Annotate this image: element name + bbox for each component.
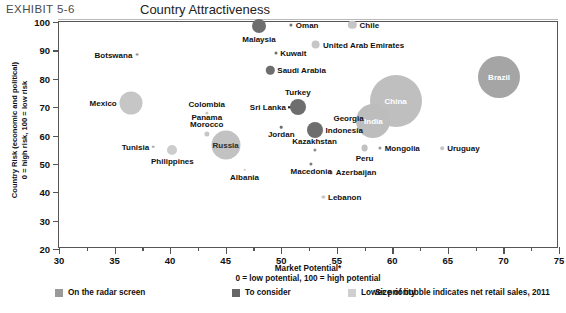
bubble-lebanon[interactable] (322, 195, 325, 198)
x-tick-minor (87, 247, 88, 251)
legend-item-0[interactable]: On the radar screen (55, 288, 145, 297)
point-label-china: China (385, 97, 407, 106)
x-tick-minor (309, 247, 310, 251)
bubble-kuwait[interactable] (274, 52, 277, 55)
y-axis-label-sub: 0 = high risk, 100 = low risk (20, 50, 30, 210)
point-label-mongolia: Mongolia (385, 144, 420, 153)
bubble-turkey[interactable] (290, 99, 306, 115)
x-tick-major (503, 247, 504, 254)
x-tick-minor (142, 247, 143, 251)
point-label-chile: Chile (360, 20, 380, 29)
bubble-saudi-arabia[interactable] (266, 66, 274, 74)
y-tick-label: 50 (39, 158, 50, 169)
bubble-albania[interactable] (243, 168, 245, 170)
bubble-mongolia[interactable] (379, 147, 382, 150)
point-label-indonesia: Indonesia (326, 125, 363, 134)
x-axis-label-main: Market Potential* (58, 264, 558, 274)
point-label-morocco: Morocco (190, 120, 223, 129)
y-tick (53, 79, 59, 80)
x-axis-label: Market Potential* 0 = low potential, 100… (58, 264, 558, 284)
y-axis-label: Country Risk (economic and political) 0 … (10, 50, 29, 210)
bubble-oman[interactable] (290, 23, 293, 26)
x-tick-major (281, 247, 282, 254)
chart-page: EXHIBIT 5-6 Country Attractiveness Count… (0, 0, 566, 313)
point-label-botswana: Botswana (95, 50, 133, 59)
y-tick (53, 50, 59, 51)
legend-item-2[interactable]: Lower priority (348, 288, 416, 297)
x-tick-minor (365, 247, 366, 251)
point-label-mexico: Mexico (90, 98, 117, 107)
bubble-peru[interactable] (361, 145, 368, 152)
legend-item-1[interactable]: To consider (232, 288, 291, 297)
point-label-malaysia: Malaysia (242, 35, 275, 44)
x-tick-minor (531, 247, 532, 251)
y-tick (53, 221, 59, 222)
x-tick-minor (198, 247, 199, 251)
point-label-united-arab-emirates: United Arab Emirates (323, 40, 404, 49)
bubble-morocco[interactable] (204, 131, 209, 136)
x-tick-major (337, 247, 338, 254)
chart-title: Country Attractiveness (140, 2, 270, 17)
y-tick-label: 100 (34, 17, 50, 28)
x-tick-major (170, 247, 171, 254)
y-tick (53, 22, 59, 23)
bubble-botswana[interactable] (135, 53, 138, 56)
y-tick (53, 192, 59, 193)
point-label-saudi-arabia: Saudi Arabia (277, 66, 326, 75)
point-label-russia: Russia (213, 141, 239, 150)
x-tick-major (226, 247, 227, 254)
bubble-indonesia[interactable] (307, 122, 323, 138)
x-tick-major (559, 247, 560, 254)
point-label-brazil: Brazil (488, 73, 510, 82)
x-tick-minor (253, 247, 254, 251)
legend-item-label: On the radar screen (68, 288, 145, 297)
x-tick-major (448, 247, 449, 254)
point-label-lebanon: Lebanon (328, 192, 361, 201)
legend-swatch-icon (55, 289, 63, 297)
y-tick-label: 80 (39, 73, 50, 84)
point-label-jordan: Jordan (268, 130, 295, 139)
bubble-uruguay[interactable] (441, 146, 445, 150)
y-tick (53, 164, 59, 165)
x-tick-minor (420, 247, 421, 251)
point-label-peru: Peru (356, 154, 374, 163)
point-label-india: India (364, 117, 383, 126)
plot-area: 203040506070809010030354045505560657075M… (58, 21, 558, 248)
point-label-kazakhstan: Kazakhstan (292, 137, 336, 146)
bubble-tunisia[interactable] (152, 146, 155, 149)
y-tick-label: 30 (39, 215, 50, 226)
y-axis-label-main: Country Risk (economic and political) (10, 50, 20, 210)
y-tick (53, 107, 59, 108)
legend-item-label: Lower priority (361, 288, 416, 297)
y-tick-label: 20 (39, 244, 50, 255)
x-tick-major (115, 247, 116, 254)
x-tick-major (59, 247, 60, 254)
point-label-sri-lanka: Sri Lanka (250, 103, 286, 112)
x-tick-major (392, 247, 393, 254)
point-label-azerbaijan: Azerbaijan (336, 168, 376, 177)
bubble-malaysia[interactable] (252, 19, 266, 33)
point-label-turkey: Turkey (285, 88, 311, 97)
point-label-albania: Albania (230, 173, 259, 182)
bubble-kazakhstan[interactable] (313, 148, 316, 151)
x-axis-label-sub: 0 = low potential, 100 = high potential (58, 274, 558, 284)
y-tick-label: 90 (39, 45, 50, 56)
legend-item-label: To consider (245, 288, 291, 297)
point-label-oman: Oman (296, 20, 319, 29)
bubble-united-arab-emirates[interactable] (311, 40, 320, 49)
bubble-macedonia[interactable] (310, 162, 313, 165)
point-label-tunisia: Tunisia (122, 142, 149, 151)
point-label-colombia: Colombia (189, 100, 225, 109)
bubble-mexico[interactable] (120, 91, 143, 114)
x-tick-minor (476, 247, 477, 251)
y-tick-label: 40 (39, 187, 50, 198)
y-tick-label: 60 (39, 130, 50, 141)
legend-swatch-icon (232, 289, 240, 297)
bubble-philippines[interactable] (167, 145, 177, 155)
exhibit-id: EXHIBIT 5-6 (6, 3, 75, 15)
point-label-georgia: Georgia (333, 114, 363, 123)
bubble-chile[interactable] (348, 21, 356, 29)
bubble-jordan[interactable] (280, 126, 283, 129)
point-label-kuwait: Kuwait (280, 49, 306, 58)
point-label-uruguay: Uruguay (447, 144, 479, 153)
